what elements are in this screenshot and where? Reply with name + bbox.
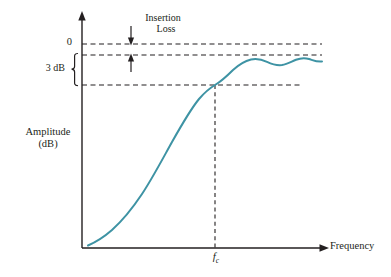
y-axis-title: Amplitude (dB): [18, 126, 78, 150]
y-axis-title-line1: Amplitude: [26, 126, 71, 137]
cutoff-frequency-label: fc: [206, 250, 226, 266]
insertion-loss-label-line2: Loss: [133, 23, 193, 34]
insertion-loss-label: Insertion Loss: [133, 12, 193, 34]
x-axis-title: Frequency: [330, 240, 374, 252]
zero-db-label: 0: [56, 36, 72, 48]
y-axis-title-line2: (dB): [18, 138, 78, 150]
three-db-label: 3 dB: [31, 62, 65, 73]
insertion-loss-label-line1: Insertion: [145, 12, 181, 23]
cutoff-frequency-subscript: c: [216, 256, 219, 265]
